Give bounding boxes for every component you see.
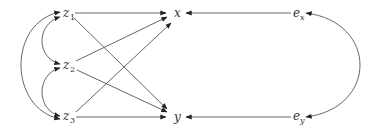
arc-z2-z3: [42, 68, 60, 116]
arc-ex-ey: [306, 13, 360, 117]
svg-text:z: z: [62, 6, 70, 20]
edge-z1-y: [74, 18, 167, 109]
node-x: x: [174, 6, 181, 20]
svg-text:3: 3: [70, 116, 75, 125]
svg-text:z: z: [62, 109, 70, 123]
svg-text:y: y: [299, 116, 305, 125]
svg-text:2: 2: [70, 65, 75, 74]
directed-edges: [74, 13, 291, 117]
node-ey: e y: [293, 109, 305, 125]
node-y: y: [173, 110, 181, 124]
node-z2: z 2: [62, 58, 75, 74]
arc-z1-z2: [42, 17, 60, 64]
svg-text:y: y: [173, 110, 181, 124]
svg-text:1: 1: [70, 13, 75, 22]
node-z1: z 1: [62, 6, 75, 22]
svg-text:z: z: [62, 58, 70, 72]
path-diagram: z 1 z 2 z 3 x y e x e y: [0, 0, 379, 130]
edge-z2-y: [77, 70, 167, 112]
svg-text:x: x: [300, 13, 305, 22]
node-ex: e x: [293, 6, 305, 22]
node-z3: z 3: [62, 109, 75, 125]
svg-text:x: x: [174, 6, 181, 20]
arc-z1-z3: [21, 12, 60, 119]
